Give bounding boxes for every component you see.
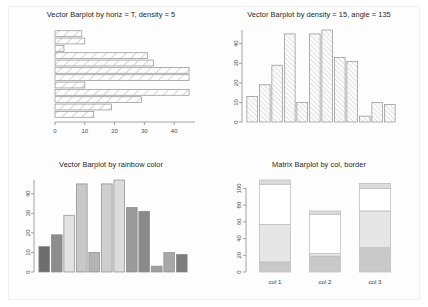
y-tick-label: 40 (236, 235, 242, 242)
bar (64, 215, 75, 272)
x-tick-label: 20 (111, 128, 118, 134)
bar (359, 116, 370, 122)
stack-segment (310, 256, 341, 272)
y-tick-label: 100 (236, 183, 242, 194)
x-tick-label: 30 (141, 128, 148, 134)
stack-segment (310, 254, 341, 257)
y-tick-label: 0 (25, 270, 31, 274)
stack-segment (360, 211, 391, 248)
y-axis-3: 010203040 (25, 180, 34, 274)
bars-group-4 (260, 180, 391, 272)
x-category-label: col 1 (268, 278, 282, 285)
panel-title-2: Vector Barplot by density = 15, angle = … (216, 10, 422, 19)
bar (114, 180, 125, 272)
y-tick-label: 20 (233, 79, 239, 86)
stack-segment (260, 262, 291, 272)
panel-title-1: Vector Barplot by horiz = T, density = 5 (8, 10, 214, 19)
panel-title-3: Vector Barplot by rainbow color (8, 160, 214, 169)
bar (89, 252, 100, 272)
y-tick-label: 80 (236, 201, 242, 208)
bars-group-3 (39, 180, 187, 272)
x-labels-4: col 1col 2col 3 (268, 278, 382, 285)
bar (55, 53, 147, 59)
bar (55, 97, 141, 103)
bar (55, 111, 94, 117)
stack-segment (360, 188, 391, 211)
panel-matrix-barplot: Matrix Barplot by col, border 0204060801… (216, 156, 422, 304)
y-tick-label: 60 (236, 218, 242, 225)
y-tick-label: 10 (233, 98, 239, 105)
y-tick-label: 40 (25, 190, 31, 197)
stack-segment (310, 211, 341, 214)
y-tick-label: 0 (236, 270, 242, 274)
bar (76, 184, 87, 272)
y-tick-label: 20 (25, 229, 31, 236)
x-category-label: col 2 (318, 278, 332, 285)
y-tick-label: 0 (233, 120, 239, 124)
chart-density-barplot: 010203040 (216, 22, 422, 152)
x-tick-label: 10 (81, 128, 88, 134)
x-axis-1: 010203040 (53, 122, 195, 134)
bar (55, 75, 189, 81)
stack-segment (260, 180, 291, 184)
bar (55, 38, 85, 44)
bar (55, 31, 82, 37)
bar (176, 254, 187, 272)
x-tick-label: 0 (53, 128, 57, 134)
y-tick-label: 30 (25, 209, 31, 216)
bar (372, 102, 383, 122)
bar (101, 184, 112, 272)
bar (334, 57, 345, 122)
panel-vector-barplot-density: Vector Barplot by density = 15, angle = … (216, 6, 422, 156)
bar (322, 30, 333, 122)
bar (384, 104, 395, 122)
y-tick-label: 30 (233, 59, 239, 66)
bar (55, 89, 189, 95)
chart-horizontal-barplot: 010203040 (8, 22, 214, 152)
bar (55, 104, 112, 110)
bar (309, 34, 320, 122)
bar (164, 252, 175, 272)
stack-segment (260, 224, 291, 262)
bar (272, 65, 283, 122)
chart-matrix-barplot: 020406080100 col 1col 2col 3 (216, 172, 422, 300)
stack-segment (310, 214, 341, 253)
bars-group-1 (55, 31, 189, 118)
screenshot-root: Vector Barplot by horiz = T, density = 5… (0, 0, 428, 307)
bars-group-2 (247, 30, 395, 122)
y-axis-4: 020406080100 (236, 183, 246, 274)
bar (247, 97, 258, 122)
x-tick-label: 40 (171, 128, 178, 134)
y-tick-label: 10 (25, 248, 31, 255)
chart-rainbow-barplot: 010203040 (8, 172, 214, 300)
stack-segment (360, 183, 391, 188)
bar (55, 45, 64, 51)
x-category-label: col 3 (368, 278, 382, 285)
bar (126, 207, 137, 272)
bar (297, 102, 308, 122)
panel-vector-barplot-rainbow: Vector Barplot by rainbow color 01020304… (8, 156, 214, 304)
bar (139, 211, 150, 272)
bar (151, 266, 162, 272)
bar (347, 61, 358, 122)
bar (55, 82, 85, 88)
bar (51, 235, 62, 272)
y-tick-label: 20 (236, 251, 242, 258)
bar (259, 85, 270, 122)
bar (55, 67, 189, 73)
bar (284, 34, 295, 122)
y-tick-label: 40 (233, 40, 239, 47)
bar (55, 60, 153, 66)
y-axis-2: 010203040 (233, 30, 242, 124)
panel-vector-barplot-horizontal: Vector Barplot by horiz = T, density = 5… (8, 6, 214, 156)
stack-segment (260, 184, 291, 224)
panel-title-4: Matrix Barplot by col, border (216, 160, 422, 169)
stack-segment (360, 248, 391, 272)
bar (39, 247, 50, 272)
